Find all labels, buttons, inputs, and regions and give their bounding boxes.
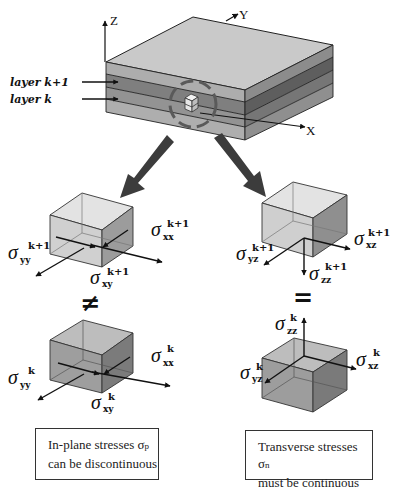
cube-lower-right: σ zz k σ xz k σ yz k	[240, 312, 382, 412]
cube-upper-left: σ yy k+1 σ xx k+1 σ xy k+1	[8, 193, 189, 290]
caption-text: Transverse stresses	[258, 439, 358, 454]
sigma-zz-k1-label: σ zz k+1	[309, 261, 347, 286]
caption-text: In-plane stresses	[48, 437, 138, 452]
sigma-xz-k-label: σ xz k	[356, 347, 382, 372]
layer-labels: layer k+1 layer k	[10, 76, 118, 106]
sigma-xz-k1-label: σ xz k+1	[354, 227, 390, 251]
sigma-zz-k-label: σ zz k	[275, 312, 301, 337]
sigma-yy-k1-label: σ yy k+1	[8, 240, 50, 266]
equal-sign: =	[293, 284, 313, 312]
big-arrow-left-icon	[120, 135, 174, 198]
not-equal-sign: ≠	[80, 289, 100, 317]
sigma-yz-k-label: σ yz k	[240, 361, 266, 385]
sigma-subscript: p	[145, 441, 150, 451]
z-axis-label: Z	[110, 13, 118, 28]
sigma-yy-k-label: σ yy k	[8, 365, 36, 391]
caption-transverse-line2: must be continuous	[258, 474, 372, 491]
caption-in-plane-line2: can be discontinuous	[48, 455, 158, 472]
sigma-xy-k-label: σ xy k	[91, 391, 118, 415]
caption-in-plane: In-plane stresses σp can be discontinuou…	[35, 428, 159, 480]
x-axis-label: X	[306, 123, 316, 138]
sigma-xx-k1-label: σ xx k+1	[151, 218, 189, 243]
caption-transverse-line1: Transverse stresses σn	[258, 438, 372, 474]
caption-transverse: Transverse stresses σn must be continuou…	[245, 430, 373, 480]
sigma-subscript: n	[265, 460, 270, 470]
caption-in-plane-line1: In-plane stresses σp	[48, 436, 158, 455]
laminate-stress-diagram: Z Y X	[0, 0, 393, 492]
sigma-symbol: σ	[258, 456, 265, 471]
element-cube-icon	[185, 94, 198, 112]
sigma-xy-k1-label: σ xy k+1	[90, 266, 129, 290]
cube-upper-right: σ yz k+1 σ xz k+1 σ zz k+1	[236, 182, 390, 286]
big-arrow-right-icon	[214, 133, 266, 197]
y-axis	[226, 14, 238, 21]
y-axis-label: Y	[239, 7, 249, 22]
layer-k-label: layer k	[10, 93, 52, 106]
laminate-plate: Z Y X	[105, 7, 333, 140]
cube-lower-left: σ yy k σ xx k σ xy k	[8, 320, 178, 415]
sigma-xx-k-label: σ xx k	[151, 343, 178, 369]
sigma-symbol: σ	[138, 437, 145, 452]
layer-k-plus-1-label: layer k+1	[10, 76, 69, 89]
